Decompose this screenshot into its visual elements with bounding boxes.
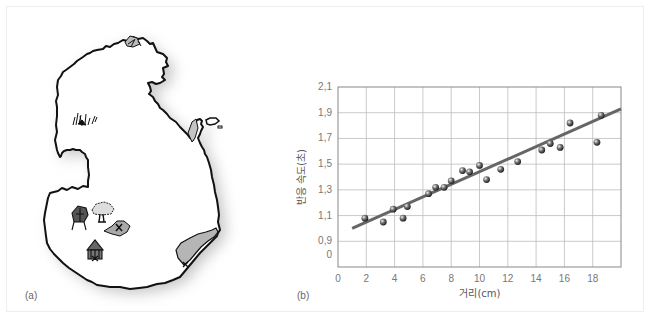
data-point	[594, 139, 601, 146]
y-tick-label: 2,1	[318, 81, 332, 92]
scatter-chart: 2,11,91,71,51,31,10,90 024681012141618 거…	[0, 0, 652, 316]
data-point	[557, 144, 564, 151]
y-tick-label: 1,5	[318, 158, 332, 169]
y-tick-label: 1,7	[318, 132, 332, 143]
y-axis-title: 반응 속도(초)	[296, 149, 307, 205]
data-point	[567, 120, 574, 127]
chart-grid	[338, 87, 621, 267]
data-point	[459, 167, 466, 174]
data-point	[400, 215, 407, 222]
x-tick-label: 4	[392, 273, 398, 284]
data-point	[380, 219, 387, 226]
data-point	[361, 215, 368, 222]
data-point	[547, 140, 554, 147]
data-point	[466, 168, 473, 175]
x-tick-label: 6	[420, 273, 426, 284]
x-tick-label: 12	[502, 273, 514, 284]
data-point	[425, 190, 432, 197]
data-point	[483, 176, 490, 183]
x-tick-label: 14	[531, 273, 543, 284]
y-tick-label: 0,9	[318, 235, 332, 246]
data-point	[441, 184, 448, 191]
y-tick-label: 1,1	[318, 210, 332, 221]
data-point	[476, 162, 483, 169]
data-point	[448, 177, 455, 184]
data-point	[598, 112, 605, 119]
data-point	[404, 203, 411, 210]
data-point	[497, 166, 504, 173]
data-point	[538, 147, 545, 154]
data-point	[390, 206, 397, 213]
y-tick-label: 1,9	[318, 107, 332, 118]
x-tick-label: 16	[559, 273, 571, 284]
data-point	[432, 184, 439, 191]
x-axis-ticks: 024681012141618	[335, 273, 598, 284]
x-tick-label: 10	[474, 273, 486, 284]
x-axis-title: 거리(cm)	[459, 288, 500, 299]
x-tick-label: 0	[335, 273, 341, 284]
data-point	[514, 158, 521, 165]
x-tick-label: 8	[448, 273, 454, 284]
y-tick-label: 0	[326, 249, 332, 260]
x-tick-label: 18	[587, 273, 599, 284]
x-tick-label: 2	[364, 273, 370, 284]
y-axis-ticks: 2,11,91,71,51,31,10,90	[318, 81, 332, 260]
y-tick-label: 1,3	[318, 184, 332, 195]
